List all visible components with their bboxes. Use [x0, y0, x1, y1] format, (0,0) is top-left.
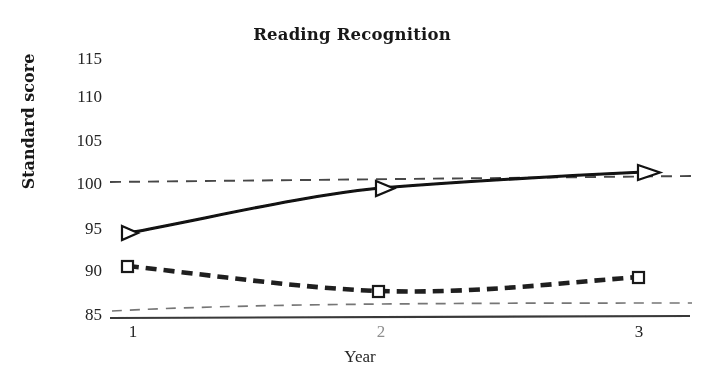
chart-plot-area	[0, 0, 704, 383]
data-point-triangle-year3	[638, 165, 660, 180]
reference-line-100	[110, 176, 692, 182]
data-point-square-year2	[373, 286, 384, 297]
data-point-triangle-year1	[122, 226, 138, 240]
data-point-square-year3	[633, 272, 644, 283]
data-point-square-year1	[122, 261, 133, 272]
reading-recognition-chart-figure: Reading Recognition Standard score 115 1…	[0, 0, 704, 383]
x-axis-spine	[110, 316, 690, 318]
reference-line-lower	[112, 303, 692, 311]
data-point-triangle-year2	[376, 181, 394, 196]
series-markers-square	[122, 261, 644, 297]
